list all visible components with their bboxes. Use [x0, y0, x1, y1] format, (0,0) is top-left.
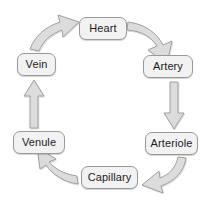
node-capillary-label: Capillary — [88, 172, 132, 183]
node-arteriole-label: Arteriole — [151, 138, 193, 149]
circulatory-cycle-diagram: Heart Artery Arteriole Capillary Venule … — [0, 0, 211, 203]
arrow-arteriole-to-capillary — [142, 157, 186, 193]
node-vein[interactable]: Vein — [17, 53, 56, 76]
node-venule[interactable]: Venule — [13, 131, 65, 154]
node-heart-label: Heart — [89, 23, 116, 34]
node-capillary[interactable]: Capillary — [81, 166, 138, 189]
node-venule-label: Venule — [22, 137, 56, 148]
arrow-venule-to-vein — [24, 80, 44, 128]
arrow-artery-to-arteriole — [164, 82, 184, 129]
node-vein-label: Vein — [26, 59, 48, 70]
node-artery-label: Artery — [153, 61, 183, 72]
node-artery[interactable]: Artery — [143, 55, 193, 78]
arrow-vein-to-heart — [30, 15, 79, 51]
node-heart[interactable]: Heart — [79, 17, 127, 40]
node-arteriole[interactable]: Arteriole — [145, 132, 198, 155]
